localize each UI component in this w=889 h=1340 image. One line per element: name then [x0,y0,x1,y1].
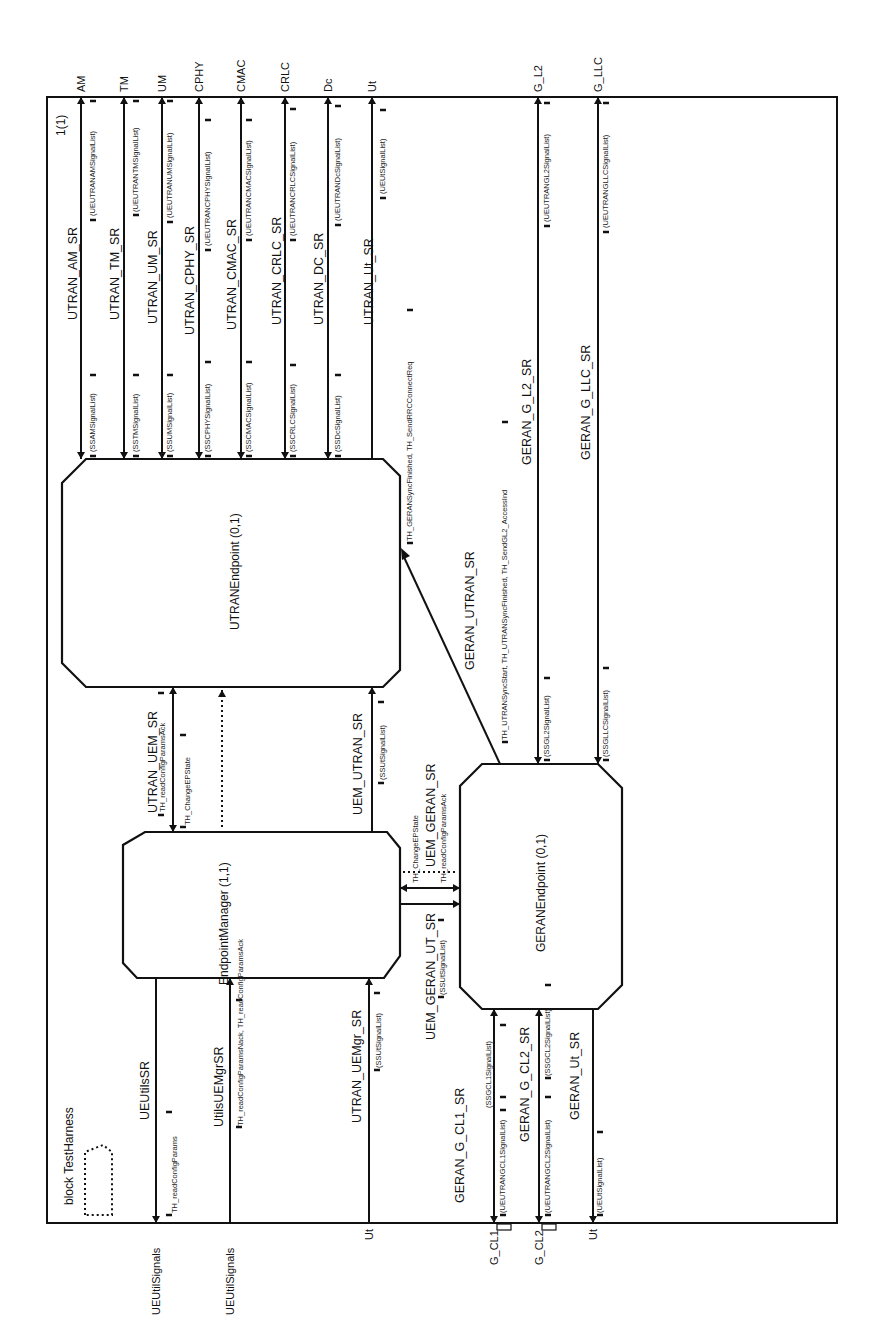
channel-label-g-llc: G_LLC [592,57,604,92]
channel-label-ut-bottom: Ut [363,1229,375,1240]
signal-list-change-ep-state-geran: TH_ChangeEPState [411,815,420,883]
page-symbol-icon [85,1145,112,1215]
channel-label-g-l2: G_L2 [532,65,544,92]
route-utran-tm: UTRAN_TM_SR [108,228,122,320]
signal-list-ueutran-gl2: (UEUTRANGL2SignalList) [542,134,551,222]
channel-label-tm: TM [118,76,130,92]
signal-list-utran-sync: TH_UTRANSyncStart, TH_UTRANSyncFinished,… [500,490,509,740]
signal-list-ueutran-cmac: (UEUTRANCMACSignalList) [244,140,253,236]
channel-label-ueutilsignals-1: UEUtilSignals [150,1247,162,1315]
signal-list-ueutran-crlc: (UEUTRANCRLCSignalList) [288,141,297,236]
signal-list-ss-um: (SSUMSignalList) [165,392,174,452]
signal-list-readconfigparams: TH_readConfigParams [170,1136,179,1213]
signal-list-ssut-geran: (SSUtSignalList) [438,939,447,995]
endpoint-manager-block[interactable] [123,832,400,978]
signal-brackets-bottom [166,985,603,1215]
channel-label-um: UM [156,75,168,92]
signal-list-ss-tm: (SSTMSignalList) [131,393,140,452]
signal-list-ss-gllc: (SSGLLCSignalList) [601,689,610,757]
channel-label-crlc: CRLC [279,62,291,92]
route-geran-utran: GERAN_UTRAN_SR [463,551,477,670]
route-utran-cmac: UTRAN_CMAC_SR [225,219,239,330]
channel-label-g-cl2: G_CL2 [533,1230,545,1265]
signal-list-readconfig-ack-geran: TH_readConfigParamsAck [439,794,448,883]
route-utran-um: UTRAN_UM_SR [146,230,160,324]
route-uem-geran-ut: UEM_GERAN_UT_SR [424,913,438,1040]
channel-label-ueutilsignals-2: UEUtilSignals [224,1247,236,1315]
signal-list-ss-am: (SSAMSignalList) [88,393,97,452]
route-utran-ut: UTRAN_Ut_SR [362,238,376,325]
signal-list-ssut-uem: (SSUtSignalList) [378,724,387,780]
signal-list-ueutran-cphy: (UEUTRANCPHYSignalList) [203,151,212,246]
geran-utran-route-line [403,555,500,764]
signal-list-ueutran-am: (UEUTRANAMSignalList) [88,130,97,216]
route-utran-dc: UTRAN_DC_SR [312,233,326,325]
signal-list-ueut-bottom: (UEUtSignalList) [595,1157,604,1213]
endpoint-manager-label: EndpointManager (1,1) [217,862,231,985]
signal-list-ss-gcl1: (SSGCL1SignalList) [484,1040,493,1108]
block-title: block TestHarness [62,1107,76,1205]
route-utran-uemgr: UTRAN_UEMgr_SR [350,1010,364,1123]
geran-endpoint-label: GERANEndpoint (0,1) [534,834,548,952]
signal-list-ueutran-um: (UEUTRANUMSignalList) [165,132,174,218]
route-utran-crlc: UTRAN_CRLC_SR [270,217,284,325]
route-uem-geran: UEM_GERAN_SR [424,764,438,868]
signal-list-ueutran-gcl1: (UEUTRANGCL1SignalList) [498,1119,507,1213]
signal-list-ss-crlc: (SSCRLCSignalList) [288,384,297,452]
channel-label-ut: Ut [366,81,378,92]
route-utils-uemgr: UtilsUEMgrSR [212,1046,226,1127]
channel-label-g-cl1: G_CL1 [488,1230,500,1265]
signal-list-ss-gcl2: (SSGCL2SignalList) [543,1008,552,1076]
channel-label-cmac: CMAC [235,60,247,92]
signal-list-geran-sync: TH_GERANSyncFinished, TH_SendRRCConnectR… [405,361,414,541]
signal-list-ssut-bottom: (SSUtSignalList) [374,1012,383,1068]
signal-list-ss-cphy: (SSCPHYSignalList) [203,383,212,452]
route-geran-ut: GERAN_Ut_SR [568,1032,582,1120]
signal-list-ueutran-dc: (UEUTRANDcSignalList) [333,138,342,221]
signal-list-ueutran-gllc: (UEUTRANGLLCSignalList) [601,134,610,228]
route-ueutils: UEUtilsSR [138,1061,152,1120]
route-uem-utran: UEM_UTRAN_SR [351,713,365,815]
route-utran-cphy: UTRAN_CPHY_SR [183,226,197,335]
signal-list-ss-cmac: (SSCMACSignalList) [244,382,253,452]
signal-list-change-ep-state: TH_ChangeEPState [183,757,192,825]
block-diagram: block TestHarness 1(1) UTRANEndpoint (0,… [0,0,889,1340]
signal-list-ss-dc: (SSDcSignalList) [333,395,342,452]
channel-label-dc: Dc [322,78,334,92]
signal-list-ueut: (UEUtSignalList) [378,138,387,194]
channel-label-am: AM [75,76,87,93]
page-number: 1(1) [54,115,68,136]
route-utran-am: UTRAN_AM_SR [66,227,80,320]
signal-list-readconfig-ack: TH_readConfigParamsAck [158,723,167,812]
signal-list-ss-gl2: (SSGL2SignalList) [542,695,551,757]
signal-list-ueutran-gcl2: (UEUTRANGCL2SignalList) [543,1119,552,1213]
route-geran-g-cl2: GERAN_G_CL2_SR [518,1027,532,1142]
route-geran-g-l2: GERAN_G_L2_SR [520,359,534,465]
signal-list-readconfig-nack-ack: TH_readConfigParamsNack, TH_readConfigPa… [236,939,245,1126]
utran-endpoint-label: UTRANEndpoint (0,1) [228,513,242,630]
route-geran-g-llc: GERAN_G_LLC_SR [579,345,593,460]
channel-label-cphy: CPHY [193,61,205,92]
signal-list-ueutran-tm: (UEUTRANTMSignalList) [131,127,140,212]
channel-label-ut-bottom-2: Ut [587,1229,599,1240]
route-geran-g-cl1: GERAN_G_CL1_SR [453,1088,467,1203]
